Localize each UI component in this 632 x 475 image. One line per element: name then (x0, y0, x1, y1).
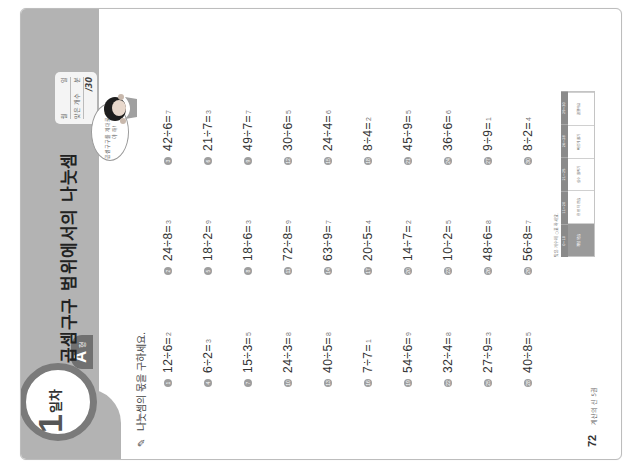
problem-answer[interactable]: 4 (365, 220, 372, 224)
problem-expression: 63÷9= (321, 225, 335, 261)
problem-answer[interactable]: 3 (245, 220, 252, 224)
problem-expression: 36÷6= (441, 115, 455, 151)
problem-number: 6 (204, 157, 212, 165)
page-number: 72 (586, 435, 598, 447)
problem-number: 23 (444, 267, 452, 275)
problem-answer[interactable]: 1 (485, 117, 492, 121)
problem-19: 19 54÷6= 9 (401, 332, 415, 387)
problem-answer[interactable]: 7 (325, 220, 332, 224)
legend-header-row: 0~10 11~20 21~25 26~28 29~30 (561, 91, 568, 257)
problem-number: 14 (324, 267, 332, 275)
problem-number: 1 (164, 379, 172, 387)
problem-number: 7 (244, 379, 252, 387)
problem-expression: 32÷4= (441, 337, 455, 373)
problem-answer[interactable]: 1 (365, 339, 372, 343)
problem-11: 11 72÷8= 9 (281, 220, 295, 275)
problem-expression: 30÷6= (281, 115, 295, 151)
problem-7: 7 15÷3= 5 (241, 332, 255, 387)
problem-expression: 21÷7= (201, 115, 215, 151)
problem-expression: 18÷2= (201, 225, 215, 261)
legend-header: 0~10 (561, 224, 568, 257)
problem-answer[interactable]: 3 (205, 339, 212, 343)
problem-answer[interactable]: 6 (325, 110, 332, 114)
problem-3: 3 42÷6= 7 (161, 110, 175, 165)
problem-number: 15 (324, 157, 332, 165)
problem-21: 21 45÷9= 5 (401, 110, 415, 165)
problem-answer[interactable]: 8 (485, 220, 492, 224)
problem-expression: 24÷4= (321, 115, 335, 151)
problem-expression: 24÷8= (161, 225, 175, 261)
problem-expression: 54÷6= (401, 337, 415, 373)
problem-answer[interactable]: 3 (205, 110, 212, 114)
problem-number: 13 (324, 379, 332, 387)
problem-answer[interactable]: 5 (445, 220, 452, 224)
problem-grid: 1 12÷6= 2 2 24÷8= 3 3 42÷6= 7 4 6÷2= 3 5… (21, 9, 621, 459)
problem-expression: 42÷6= (161, 115, 175, 151)
problem-18: 18 8÷4= 2 (361, 117, 375, 165)
problem-answer[interactable]: 5 (245, 332, 252, 336)
legend-cell: 개념 복습 (568, 223, 594, 256)
page-footer: 72 계산의 신 5권 (581, 387, 600, 447)
legend-header: 21~25 (561, 157, 568, 190)
problem-number: 3 (164, 157, 172, 165)
problem-number: 9 (244, 157, 252, 165)
problem-answer[interactable]: 3 (165, 220, 172, 224)
legend-cell: 빠르게 풀기 (568, 125, 594, 158)
problem-answer[interactable]: 8 (285, 332, 292, 336)
problem-answer[interactable]: 7 (525, 220, 532, 224)
problem-answer[interactable]: 2 (365, 117, 372, 121)
problem-15: 15 24÷4= 6 (321, 110, 335, 165)
problem-1: 1 12÷6= 2 (161, 332, 175, 387)
problem-expression: 45÷9= (401, 115, 415, 151)
problem-expression: 48÷6= (481, 225, 495, 261)
problem-26: 26 48÷6= 8 (481, 220, 495, 275)
problem-number: 17 (364, 267, 372, 275)
problem-expression: 15÷3= (241, 337, 255, 373)
problem-number: 16 (364, 379, 372, 387)
problem-answer[interactable]: 5 (285, 110, 292, 114)
problem-expression: 8÷4= (361, 122, 375, 151)
legend-body-row: 개념 복습 한 번 더 연습 실수 줄이기 빠르게 풀기 잘했어요 (568, 91, 595, 257)
problem-number: 12 (284, 157, 292, 165)
problem-answer[interactable]: 9 (205, 220, 212, 224)
problem-number: 25 (484, 379, 492, 387)
problem-answer[interactable]: 9 (285, 220, 292, 224)
problem-number: 22 (444, 379, 452, 387)
problem-answer[interactable]: 9 (405, 332, 412, 336)
problem-expression: 49÷7= (241, 115, 255, 151)
problem-number: 27 (484, 157, 492, 165)
problem-expression: 40÷5= (321, 337, 335, 373)
problem-expression: 14÷7= (401, 225, 415, 261)
problem-expression: 18÷6= (241, 225, 255, 261)
problem-answer[interactable]: 7 (165, 110, 172, 114)
problem-24: 24 36÷6= 6 (441, 110, 455, 165)
problem-number: 18 (364, 157, 372, 165)
problem-answer[interactable]: 2 (405, 220, 412, 224)
problem-5: 5 18÷2= 9 (201, 220, 215, 275)
problem-answer[interactable]: 8 (445, 332, 452, 336)
problem-29: 29 56÷8= 7 (521, 220, 535, 275)
problem-number: 4 (204, 379, 212, 387)
legend-note: 맞은 개수에 ○표 하세요. (553, 212, 559, 257)
problem-answer[interactable]: 2 (165, 332, 172, 336)
problem-expression: 27÷9= (481, 337, 495, 373)
problem-answer[interactable]: 5 (525, 332, 532, 336)
problem-number: 28 (524, 379, 532, 387)
problem-answer[interactable]: 8 (325, 332, 332, 336)
problem-answer[interactable]: 4 (525, 117, 532, 121)
problem-answer[interactable]: 5 (405, 110, 412, 114)
problem-8: 8 18÷6= 3 (241, 220, 255, 275)
legend-cell: 한 번 더 연습 (568, 190, 594, 223)
problem-answer[interactable]: 6 (445, 110, 452, 114)
problem-answer[interactable]: 7 (245, 110, 252, 114)
problem-17: 17 20÷5= 4 (361, 220, 375, 275)
legend-cell: 잘했어요 (568, 92, 594, 125)
problem-number: 24 (444, 157, 452, 165)
problem-25: 25 27÷9= 3 (481, 332, 495, 387)
problem-answer[interactable]: 3 (485, 332, 492, 336)
problem-expression: 7÷7= (361, 344, 375, 373)
problem-number: 11 (284, 267, 292, 275)
problem-number: 5 (204, 267, 212, 275)
problem-number: 10 (284, 379, 292, 387)
problem-10: 10 24÷3= 8 (281, 332, 295, 387)
